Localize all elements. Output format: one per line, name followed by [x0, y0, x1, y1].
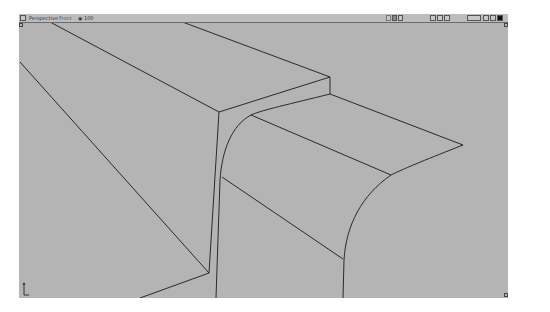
- camera-icon[interactable]: [386, 15, 391, 21]
- snap-icon[interactable]: [437, 15, 443, 21]
- corner-handle-top-right[interactable]: [504, 23, 508, 27]
- corner-handle-top-left[interactable]: [19, 23, 23, 27]
- render-icon[interactable]: [392, 15, 397, 21]
- viewport-label[interactable]: Perspective: [29, 14, 58, 22]
- xyz-axis-icon: [21, 282, 31, 296]
- scene-geometry: [19, 14, 508, 298]
- maximize-icon[interactable]: [483, 15, 489, 21]
- corner-handle-bottom-right[interactable]: [504, 293, 508, 297]
- display-button[interactable]: [467, 15, 481, 21]
- grid-icon[interactable]: [430, 15, 436, 21]
- viewport-menu-icon[interactable]: [20, 15, 26, 21]
- viewport-header: Perspective Front ◉ 100: [19, 14, 508, 23]
- frame-icon[interactable]: [398, 15, 403, 21]
- 3d-viewport[interactable]: Perspective Front ◉ 100: [19, 14, 508, 298]
- nav-icon[interactable]: [444, 15, 450, 21]
- restore-icon[interactable]: [490, 15, 496, 21]
- viewport-mode[interactable]: Front: [59, 14, 72, 22]
- eye-icon[interactable]: ◉: [78, 14, 82, 22]
- close-icon[interactable]: [497, 15, 503, 21]
- zoom-level: 100: [84, 14, 94, 22]
